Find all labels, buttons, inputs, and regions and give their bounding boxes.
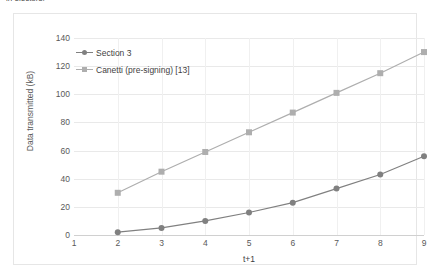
x-tick-label-4: 4 — [203, 238, 208, 248]
chart-figure: in electors. Data transmitted (kB) 02040… — [0, 0, 430, 273]
y-axis-tick-labels: 020406080100120140 — [36, 38, 70, 235]
data-point-marker — [159, 225, 165, 231]
data-point-marker — [115, 190, 121, 196]
data-point-marker — [246, 209, 252, 215]
data-point-marker — [377, 171, 383, 177]
y-tick-label-20: 20 — [61, 202, 70, 212]
x-tick-label-2: 2 — [115, 238, 120, 248]
data-point-marker — [421, 153, 427, 159]
x-tick-label-5: 5 — [247, 238, 252, 248]
y-tick-label-120: 120 — [56, 61, 70, 71]
legend-swatch-square-icon — [76, 65, 93, 75]
x-tick-label-7: 7 — [334, 238, 339, 248]
data-point-marker — [115, 229, 121, 235]
legend-swatch-circle-icon — [76, 48, 93, 58]
x-axis-title: t+1 — [74, 254, 424, 264]
y-tick-label-0: 0 — [65, 230, 70, 240]
x-tick-label-1: 1 — [72, 238, 77, 248]
data-point-marker — [202, 149, 208, 155]
legend-entry-0[interactable]: Section 3 — [76, 44, 276, 61]
legend-entry-1[interactable]: Canetti (pre-signing) [13] — [76, 61, 276, 78]
data-point-marker — [290, 110, 296, 116]
data-point-marker — [421, 49, 427, 55]
y-tick-label-40: 40 — [61, 174, 70, 184]
legend-label: Section 3 — [96, 48, 131, 58]
cropped-body-text-sliver: in electors. — [6, 0, 126, 4]
gridline-y-0 — [74, 235, 424, 236]
x-tick-label-9: 9 — [422, 238, 427, 248]
x-tick-label-8: 8 — [378, 238, 383, 248]
chart-legend: Section 3Canetti (pre-signing) [13] — [76, 44, 276, 78]
y-tick-label-60: 60 — [61, 146, 70, 156]
data-point-marker — [377, 70, 383, 76]
gridline-x-9 — [424, 38, 425, 235]
data-point-marker — [334, 90, 340, 96]
x-tick-label-3: 3 — [159, 238, 164, 248]
data-point-marker — [202, 218, 208, 224]
y-tick-label-80: 80 — [61, 117, 70, 127]
chart-frame: Data transmitted (kB) 020406080100120140… — [13, 13, 417, 265]
series-line-0 — [118, 156, 424, 232]
legend-label: Canetti (pre-signing) [13] — [96, 65, 190, 75]
data-point-marker — [334, 186, 340, 192]
y-axis-title: Data transmitted (kB) — [25, 51, 35, 171]
x-tick-label-6: 6 — [290, 238, 295, 248]
data-point-marker — [246, 129, 252, 135]
y-tick-label-100: 100 — [56, 89, 70, 99]
y-tick-label-140: 140 — [56, 33, 70, 43]
data-point-marker — [159, 169, 165, 175]
data-point-marker — [290, 200, 296, 206]
x-axis-tick-labels: 123456789 — [74, 238, 424, 252]
